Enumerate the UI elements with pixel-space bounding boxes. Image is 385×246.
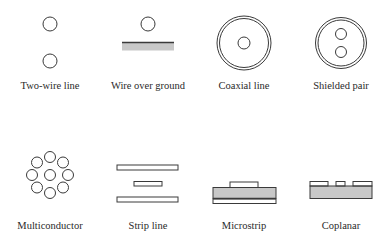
coaxial-line-figure [217, 16, 271, 70]
two-wire-line-figure [43, 17, 57, 68]
label-wire-over-ground: Wire over ground [93, 80, 203, 91]
conductor-icon [63, 170, 74, 181]
dielectric-substrate-icon [213, 188, 276, 199]
dielectric-substrate-icon [310, 186, 372, 199]
conductor-icon [32, 157, 43, 168]
label-multiconductor: Multiconductor [0, 220, 105, 231]
wire-over-ground-figure [122, 17, 174, 51]
ground-strip-icon [353, 182, 372, 187]
microstrip-figure [213, 182, 276, 204]
outer-shield-inner-icon [220, 19, 269, 68]
conductor-icon [27, 170, 38, 181]
ground-strip-icon [310, 182, 328, 187]
center-strip-icon [336, 182, 345, 187]
label-microstrip: Microstrip [189, 220, 299, 231]
outer-shield-icon [316, 18, 367, 69]
strip-conductor-icon [134, 182, 162, 187]
coplanar-figure [310, 182, 372, 199]
outer-shield-inner-icon [318, 20, 364, 66]
label-coaxial-line: Coaxial line [189, 80, 299, 91]
label-two-wire-line: Two-wire line [0, 80, 105, 91]
conductor-icon [45, 188, 56, 199]
conductor-icon [336, 47, 347, 58]
ground-plate-icon [117, 165, 178, 170]
ground-plate-icon [213, 199, 276, 204]
conductor-icon [45, 152, 56, 163]
transmission-line-diagram [0, 0, 385, 246]
conductor-icon [45, 170, 56, 181]
conductor-icon [43, 17, 57, 31]
ground-plate-icon [117, 197, 178, 202]
label-shielded-pair: Shielded pair [286, 80, 385, 91]
conductor-icon [58, 157, 69, 168]
conductor-icon [43, 54, 57, 68]
conductor-icon [336, 29, 347, 40]
conductor-icon [58, 182, 69, 193]
strip-conductor-icon [230, 182, 258, 188]
shielded-pair-figure [316, 18, 367, 69]
outer-shield-icon [217, 16, 271, 70]
label-coplanar: Coplanar [286, 220, 385, 231]
multiconductor-figure [27, 152, 74, 199]
label-strip-line: Strip line [93, 220, 203, 231]
strip-line-figure [117, 165, 178, 202]
conductor-icon [32, 182, 43, 193]
center-conductor-icon [238, 37, 250, 49]
ground-plane-icon [122, 43, 174, 51]
conductor-icon [141, 17, 155, 31]
